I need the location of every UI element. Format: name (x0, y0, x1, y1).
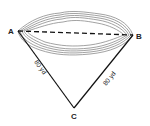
edge-ab-dashed (18, 31, 133, 35)
diagram-canvas: A B C 80 yd 80 yd (0, 0, 150, 126)
vertex-label-c: C (71, 112, 77, 121)
side-label-bc: 80 yd (101, 70, 117, 88)
vertex-label-b: B (136, 32, 142, 41)
triangle-diagram: A B C 80 yd 80 yd (0, 0, 150, 126)
vertex-label-a: A (8, 27, 14, 36)
side-label-ac: 80 yd (32, 58, 48, 76)
